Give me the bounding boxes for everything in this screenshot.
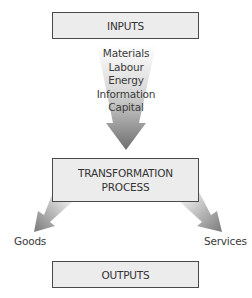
- inputs-label: INPUTS: [107, 19, 144, 33]
- transformation-label-line1: TRANSFORMATION: [78, 166, 173, 180]
- services-label: Services: [204, 235, 247, 247]
- input-item: Information: [76, 88, 176, 102]
- transformation-process-box: TRANSFORMATION PROCESS: [52, 158, 199, 202]
- input-item: Capital: [76, 101, 176, 115]
- input-items-list: Materials Labour Energy Information Capi…: [76, 47, 176, 115]
- inputs-box: INPUTS: [52, 12, 199, 39]
- arrows-layer: [0, 0, 252, 298]
- goods-label: Goods: [14, 235, 46, 247]
- outputs-box: OUTPUTS: [52, 261, 199, 288]
- input-item: Energy: [76, 74, 176, 88]
- transformation-label-line2: PROCESS: [78, 180, 173, 194]
- input-item: Materials: [76, 47, 176, 61]
- input-item: Labour: [76, 61, 176, 75]
- outputs-label: OUTPUTS: [101, 268, 149, 282]
